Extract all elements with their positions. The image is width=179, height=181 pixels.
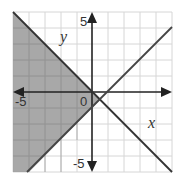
y-tick-neg5: -5 — [73, 156, 85, 171]
coordinate-plane: -5 0 5 -5 x y — [0, 0, 179, 181]
x-tick-neg5: -5 — [15, 94, 27, 109]
y-axis-label: y — [58, 28, 68, 46]
x-axis-label: x — [147, 114, 155, 131]
y-tick-5: 5 — [80, 14, 87, 29]
origin-label: 0 — [80, 94, 87, 109]
y-axis-arrow-up — [87, 12, 97, 23]
x-axis-arrow-right — [161, 87, 172, 97]
y-axis-arrow-down — [87, 161, 97, 172]
